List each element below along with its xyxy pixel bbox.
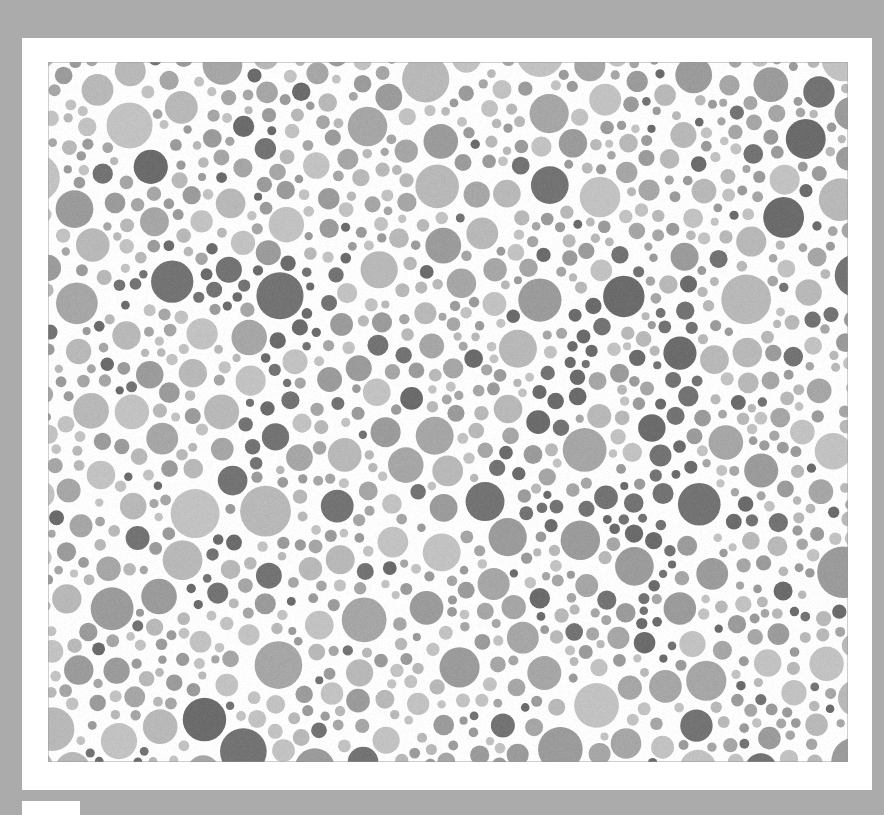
ishihara-plate-field — [48, 62, 848, 762]
plate-viewer — [0, 0, 884, 815]
dot-field-canvas — [48, 62, 848, 762]
caption-tab — [22, 801, 80, 815]
